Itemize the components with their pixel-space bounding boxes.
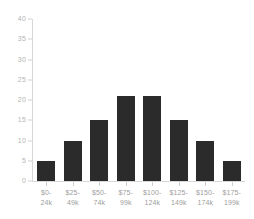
x-axis-line — [32, 181, 245, 182]
x-axis-tick-mark — [205, 182, 206, 186]
plot-area — [33, 19, 245, 181]
y-axis-tick-label: 15 — [0, 116, 26, 124]
y-axis-tick-mark — [28, 79, 32, 80]
x-axis-tick-label: $175-199k — [209, 188, 254, 207]
y-axis-tick-mark — [28, 39, 32, 40]
y-axis-tick-label: 35 — [0, 35, 26, 43]
y-axis-tick-mark — [28, 19, 32, 20]
x-axis-tick-mark — [232, 182, 233, 186]
bar-chart: 0510152025303540 $0-24k$25-49k$50-74k$75… — [0, 0, 254, 219]
y-axis-tick-mark — [28, 120, 32, 121]
y-axis-tick-label: 30 — [0, 56, 26, 64]
bar — [196, 141, 214, 182]
y-axis-tick-mark — [28, 181, 32, 182]
bar — [117, 96, 135, 181]
y-axis-tick-mark — [28, 100, 32, 101]
bar — [90, 120, 108, 181]
x-axis-tick-mark — [179, 182, 180, 186]
y-axis-tick-label: 20 — [0, 96, 26, 104]
y-axis-tick-label: 10 — [0, 137, 26, 145]
y-axis-tick-mark — [28, 160, 32, 161]
y-axis-tick-mark — [28, 59, 32, 60]
y-axis-tick-label: 25 — [0, 76, 26, 84]
y-axis-tick-label: 0 — [0, 177, 26, 185]
bar — [143, 96, 161, 181]
bar — [37, 161, 55, 181]
x-axis-tick-mark — [46, 182, 47, 186]
x-axis-tick-mark — [73, 182, 74, 186]
bar — [170, 120, 188, 181]
y-axis-tick-label: 40 — [0, 15, 26, 23]
bar — [223, 161, 241, 181]
x-axis-tick-mark — [152, 182, 153, 186]
y-axis-tick-mark — [28, 140, 32, 141]
bar — [64, 141, 82, 182]
x-axis-tick-mark — [126, 182, 127, 186]
x-axis-tick-mark — [99, 182, 100, 186]
y-axis-tick-label: 5 — [0, 157, 26, 165]
